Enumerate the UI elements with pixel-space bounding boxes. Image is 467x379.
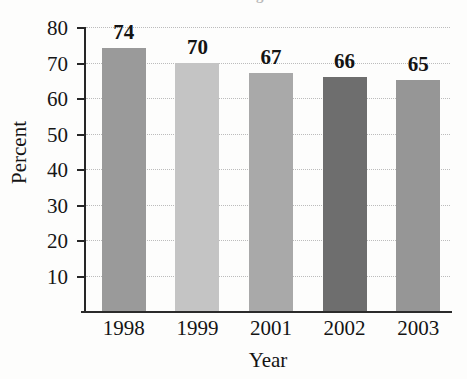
y-axis-tick: 80: [77, 27, 86, 29]
bar-value-label: 67: [261, 47, 282, 68]
y-axis-tick-label: 30: [47, 196, 68, 217]
bar-rect: [175, 63, 219, 312]
x-axis-category-label: 2002: [324, 318, 366, 339]
bar-1998[interactable]: 741998: [102, 18, 146, 312]
y-axis-tick-label: 40: [47, 160, 68, 181]
x-axis-category-label: 1999: [176, 318, 218, 339]
bar-2002[interactable]: 662002: [323, 18, 367, 312]
bar-1999[interactable]: 701999: [175, 18, 219, 312]
x-axis-title: Year: [84, 348, 452, 373]
x-axis-category-label: 1998: [103, 318, 145, 339]
y-axis-tick-label: 80: [47, 18, 68, 39]
bar-rect: [396, 80, 440, 311]
y-axis-tick-label: 20: [47, 231, 68, 252]
bar-value-label: 66: [334, 51, 355, 72]
y-axis-tick: 60: [77, 98, 86, 100]
x-axis-category-label: 2003: [397, 318, 439, 339]
y-axis-tick-label: 70: [47, 54, 68, 75]
bar-2003[interactable]: 652003: [396, 18, 440, 312]
x-axis-category-label: 2001: [250, 318, 292, 339]
y-axis-title: Percent: [7, 98, 32, 208]
bar-rect: [249, 73, 293, 311]
bar-rect: [102, 48, 146, 311]
bar-value-label: 65: [408, 54, 429, 75]
bar-2001[interactable]: 672001: [249, 18, 293, 312]
plot-area: 1020304050607080 74199870199967200166200…: [84, 18, 452, 312]
bar-rect: [323, 77, 367, 311]
chart-title-cutoff: Percentage: [0, 0, 467, 9]
y-axis-tick: 70: [77, 63, 86, 65]
y-axis-tick: 20: [77, 240, 86, 242]
y-axis-tick: 10: [77, 276, 86, 278]
chart-title-text: Percentage: [0, 0, 467, 4]
bar-chart-figure: Percentage 1020304050607080 741998701999…: [0, 0, 467, 379]
y-axis-tick: 40: [77, 169, 86, 171]
y-axis-tick-label: 60: [47, 89, 68, 110]
y-axis-tick: 50: [77, 134, 86, 136]
y-axis-tick: 30: [77, 205, 86, 207]
bar-value-label: 74: [113, 22, 134, 43]
y-axis-tick-label: 50: [47, 125, 68, 146]
y-axis-tick-label: 10: [47, 267, 68, 288]
bar-value-label: 70: [187, 37, 208, 58]
